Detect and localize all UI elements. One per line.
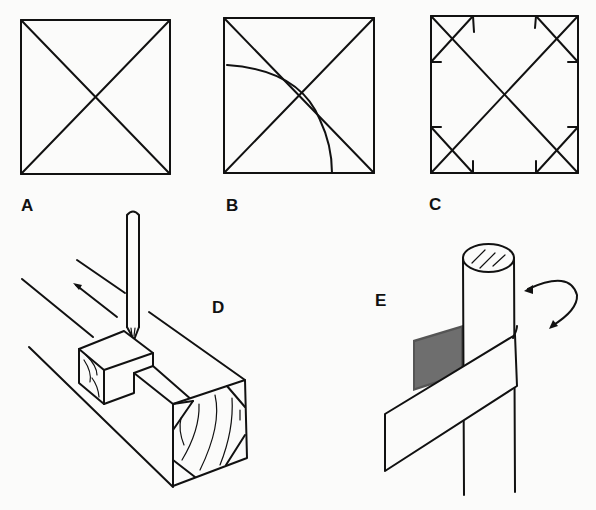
rotation-arrow xyxy=(528,281,577,326)
panel-b-label: B xyxy=(226,196,238,215)
panel-d-label: D xyxy=(212,298,224,317)
panel-b-square xyxy=(224,18,374,173)
stock-edge-far xyxy=(77,260,125,293)
cradle-edge-upper xyxy=(22,279,93,337)
gauge-block xyxy=(79,331,153,404)
square-stock xyxy=(134,366,247,486)
panel-c-label: C xyxy=(429,195,441,214)
pencil-icon xyxy=(127,212,139,341)
panel-d-marking-gauge xyxy=(22,212,247,488)
panel-c-square xyxy=(431,16,578,173)
direction-arrow xyxy=(76,285,117,317)
dowel-end xyxy=(463,244,514,272)
diagram-canvas: A B C xyxy=(0,0,596,510)
arc-line xyxy=(227,65,332,173)
panel-e-label: E xyxy=(375,291,386,310)
stock-edge-right xyxy=(149,312,245,380)
panel-a-label: A xyxy=(21,196,33,215)
panel-e-dowel-sanding xyxy=(385,244,577,495)
panel-a-square xyxy=(21,20,170,174)
